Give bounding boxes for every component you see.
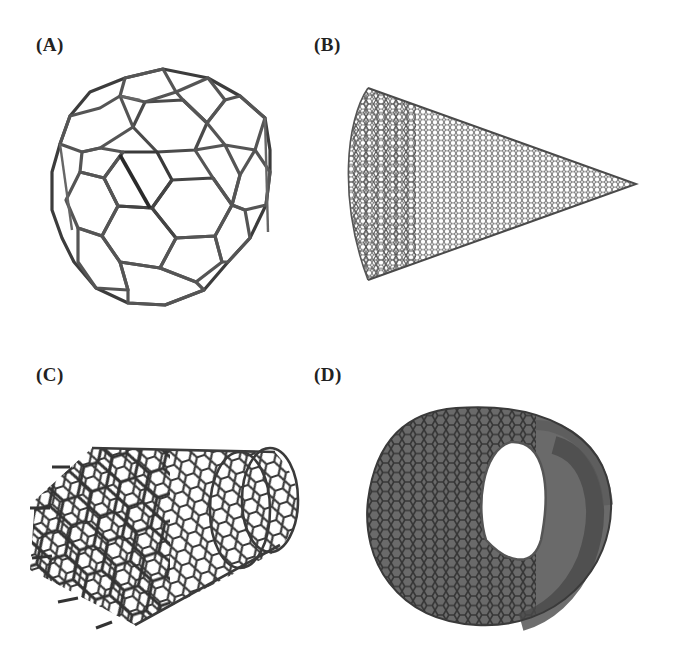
panel-a: (A): [0, 0, 336, 330]
panel-b: (B): [336, 0, 673, 330]
panel-c: (C): [0, 330, 336, 655]
panel-d: (D): [336, 330, 673, 655]
fullerene-icon: [0, 0, 336, 330]
nanotube-icon: [0, 330, 336, 655]
nanocone-icon: [336, 0, 673, 330]
nanotube-end-icon: [336, 330, 673, 655]
